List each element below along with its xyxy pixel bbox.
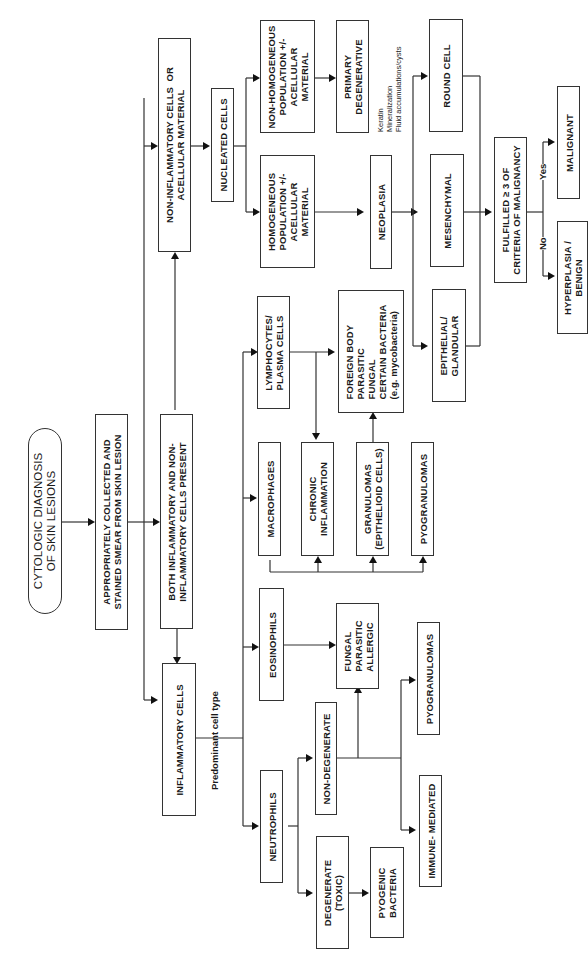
node-mesenchymal: MESENCHYMAL (430, 154, 464, 267)
node-macrophages: MACROPHAGES (258, 442, 281, 556)
node-nucleated-cells: NUCLEATED CELLS (211, 88, 234, 202)
node-label: NON-HOMOGENEOUS POPULATION +/- ACELLULAR… (266, 25, 310, 128)
node-pyogranulomas-lower: PYOGRANULOMAS (417, 622, 440, 735)
node-label: CHRONIC INFLAMMATION (307, 462, 329, 536)
node-label: INFLAMMATORY CELLS (174, 684, 185, 795)
node-non-homogeneous: NON-HOMOGENEOUS POPULATION +/- ACELLULAR… (260, 20, 315, 133)
node-pyogenic-bacteria: PYOGENIC BACTERIA (370, 847, 404, 938)
node-label: DEGENERATE (TOXIC) (322, 859, 344, 925)
node-neutrophils: NEUTROPHILS (260, 770, 283, 883)
node-both-present: BOTH INFLAMMATORY AND NON- INFLAMMATORY … (160, 414, 193, 629)
node-label: ROUND CELL (441, 44, 452, 107)
node-malignant: MALIGNANT (557, 86, 580, 199)
node-label: PYOGENIC BACTERIA (376, 867, 398, 918)
yes-label: Yes (538, 164, 547, 180)
node-chronic-inflammation: CHRONIC INFLAMMATION (301, 442, 334, 556)
node-label: MESENCHYMAL (442, 173, 453, 249)
node-label: NUCLEATED CELLS (217, 98, 228, 191)
node-start: CYTOLOGIC DIAGNOSIS OF SKIN LESIONS (28, 428, 62, 614)
node-homogeneous: HOMOGENEOUS POPULATION +/- ACELLULAR MAT… (260, 155, 315, 268)
node-immune-mediated: IMMUNE- MEDIATED (419, 775, 442, 887)
node-label: NON-INFLAMMATORY CELLS OR ACELLULAR MATE… (164, 67, 186, 223)
node-neoplasia: NEOPLASIA (370, 155, 392, 269)
node-label: EOSINOPHILS (266, 611, 277, 677)
node-criteria-malignancy: FULFILLED ≥ 3 OF CRITERIA OF MALIGNANCY (494, 137, 527, 283)
node-epithelial-glandular: EPITHELIAL/ GLANDULAR (432, 289, 466, 402)
node-label: MALIGNANT (563, 114, 574, 172)
node-label: BOTH INFLAMMATORY AND NON- INFLAMMATORY … (166, 442, 188, 602)
node-label: IMMUNE- MEDIATED (425, 784, 436, 879)
degenerative-list: Keratin Mineralization Fluid accumulatio… (376, 47, 403, 132)
node-label: CYTOLOGIC DIAGNOSIS OF SKIN LESIONS (32, 453, 58, 590)
node-label: NEUTROPHILS (266, 792, 277, 861)
node-hyperplasia-benign: HYPERPLASIA / BENIGN (557, 221, 588, 334)
node-label: FUNGAL PARASITIC ALLERGIC (341, 620, 374, 671)
node-label: PYOGRANULOMAS (423, 633, 434, 724)
node-label: EPITHELIAL/ GLANDULAR (438, 315, 460, 376)
node-label: HYPERPLASIA / BENIGN (562, 241, 584, 315)
node-label: FOREIGN BODY PARASITIC FUNGAL CERTAIN BA… (344, 304, 399, 399)
node-label: FULFILLED ≥ 3 OF CRITERIA OF MALIGNANCY (500, 145, 522, 275)
node-lymphocytes-plasma: LYMPHOCYTES/ PLASMA CELLS (257, 296, 290, 409)
node-label: NON-DEGENERATE (321, 713, 332, 804)
node-round-cell: ROUND CELL (429, 19, 463, 132)
node-eosinophils: EOSINOPHILS (259, 588, 284, 701)
node-label: MACROPHAGES (264, 460, 275, 537)
node-smear: APPROPRIATELY COLLECTED AND STAINED SMEA… (95, 414, 128, 630)
node-non-inflammatory: NON-INFLAMMATORY CELLS OR ACELLULAR MATE… (158, 38, 191, 252)
node-label: PYOGRANULOMAS (417, 454, 428, 545)
node-label: PRIMARY DEGENERATIVE (342, 39, 364, 114)
node-label: NEOPLASIA (376, 184, 387, 240)
no-label: No (538, 237, 547, 250)
predominant-cell-type-label: Predominant cell type (210, 691, 219, 790)
node-inflammatory: INFLAMMATORY CELLS (162, 663, 196, 816)
node-degenerate-toxic: DEGENERATE (TOXIC) (316, 836, 349, 949)
node-label: GRANULOMAS (EPITHELIOID CELLS) (362, 448, 384, 550)
node-label: HOMOGENEOUS POPULATION +/- ACELLULAR MAT… (266, 172, 310, 250)
node-label: APPROPRIATELY COLLECTED AND STAINED SMEA… (101, 435, 123, 610)
node-primary-degenerative: PRIMARY DEGENERATIVE (336, 20, 369, 133)
node-non-degenerate: NON-DEGENERATE (315, 702, 337, 815)
node-fungal-parasitic-allergic: FUNGAL PARASITIC ALLERGIC (336, 603, 379, 689)
node-granulomas: GRANULOMAS (EPITHELIOID CELLS) (356, 442, 389, 556)
node-label: LYMPHOCYTES/ PLASMA CELLS (263, 315, 285, 390)
node-foreign-body: FOREIGN BODY PARASITIC FUNGAL CERTAIN BA… (338, 290, 404, 413)
node-pyogranulomas-upper: PYOGRANULOMAS (411, 442, 434, 556)
